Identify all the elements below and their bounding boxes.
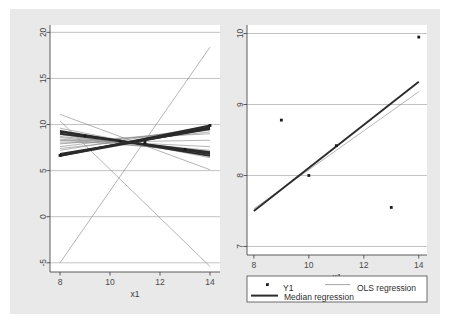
data-point bbox=[59, 154, 62, 157]
data-point bbox=[184, 148, 187, 151]
plot-background bbox=[50, 25, 220, 272]
y-tick-label: 9 bbox=[235, 102, 245, 107]
x-tick-label: 10 bbox=[105, 277, 115, 287]
data-point bbox=[144, 141, 147, 144]
legend-label-ols: OLS regression bbox=[357, 283, 416, 293]
data-point bbox=[84, 135, 87, 138]
right-plot-panel: 789108101214x1Y1OLS regressionMedian reg… bbox=[225, 9, 440, 314]
x-axis-title: x1 bbox=[131, 289, 140, 299]
y-tick-label: 7 bbox=[235, 244, 245, 249]
data-point bbox=[307, 174, 310, 177]
y-tick-label: 8 bbox=[235, 173, 245, 178]
x-tick-label: 14 bbox=[414, 260, 424, 270]
y-tick-label: 10 bbox=[38, 120, 48, 130]
y-tick-label: -5 bbox=[38, 259, 48, 267]
x-tick-label: 8 bbox=[58, 277, 63, 287]
data-point bbox=[209, 124, 212, 127]
y-tick-label: 0 bbox=[38, 214, 48, 219]
legend-label-median: Median regression bbox=[284, 292, 354, 302]
x-tick-label: 14 bbox=[205, 277, 215, 287]
y-tick-label: 20 bbox=[38, 27, 48, 37]
plot-background bbox=[247, 25, 427, 255]
y-tick-label: 5 bbox=[38, 168, 48, 173]
data-point bbox=[119, 140, 122, 143]
x-tick-label: 12 bbox=[155, 277, 165, 287]
y-tick-label: 15 bbox=[38, 73, 48, 83]
data-point bbox=[280, 119, 283, 122]
legend-marker-point bbox=[266, 283, 269, 286]
data-point bbox=[390, 206, 393, 209]
y-tick-label: 10 bbox=[235, 29, 245, 39]
left-plot-panel: -5051015208101214x1 bbox=[10, 9, 225, 314]
data-point bbox=[335, 144, 338, 147]
x-tick-label: 10 bbox=[304, 260, 314, 270]
x-tick-label: 8 bbox=[252, 260, 257, 270]
figure-canvas: -5051015208101214x1 789108101214x1Y1OLS … bbox=[10, 9, 440, 314]
x-tick-label: 12 bbox=[359, 260, 369, 270]
data-point bbox=[417, 36, 420, 39]
